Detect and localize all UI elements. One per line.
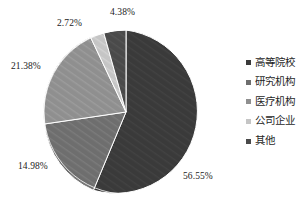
chart-legend: 高等院校 研究机构 医疗机构 公司企业 其他 (246, 53, 308, 151)
legend-item-label: 公司企业 (255, 116, 295, 127)
legend-swatch-icon (246, 119, 251, 124)
legend-swatch-icon (246, 139, 251, 144)
legend-swatch-icon (246, 80, 251, 85)
legend-item-gongsiqiye[interactable]: 公司企业 (246, 112, 308, 132)
slice-value-label-gaodengyuanxiao: 56.55% (183, 171, 213, 181)
legend-item-yiliaojigou[interactable]: 医疗机构 (246, 92, 308, 112)
legend-item-label: 医疗机构 (255, 97, 295, 108)
legend-item-label: 其他 (255, 136, 275, 147)
slice-value-label-yiliaojigou: 21.38% (11, 61, 41, 71)
legend-item-qita[interactable]: 其他 (246, 131, 308, 151)
slice-value-label-gongsiqiye: 2.72% (57, 18, 82, 28)
legend-item-gaodengyuanxiao[interactable]: 高等院校 (246, 53, 308, 73)
legend-item-label: 研究机构 (255, 77, 295, 88)
slice-value-label-qita: 4.38% (110, 7, 135, 17)
legend-swatch-icon (246, 60, 251, 65)
slice-value-label-yanjiujigou: 14.98% (18, 161, 48, 171)
pie-chart-figure: 4.38% 2.72% 21.38% 14.98% 56.55% 高等院校 研究… (0, 0, 308, 211)
legend-swatch-icon (246, 99, 251, 104)
legend-item-yanjiujigou[interactable]: 研究机构 (246, 73, 308, 93)
legend-item-label: 高等院校 (255, 58, 295, 69)
